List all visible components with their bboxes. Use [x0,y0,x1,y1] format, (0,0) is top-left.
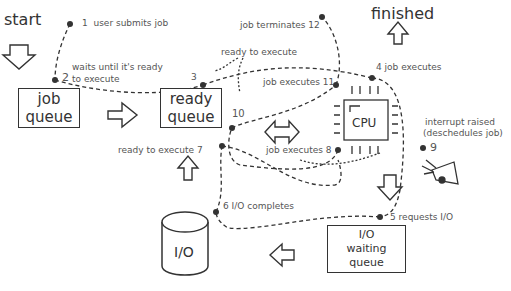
node-4 [369,75,375,81]
arrow-up-finished-icon [388,22,408,44]
node-1 [67,21,73,27]
path-ready-10 [238,58,243,93]
node-5 [377,214,383,220]
step-1-label: 1 user submits job [82,18,168,29]
ready-queue-line2: queue [168,108,215,126]
step-2-label-cont: to execute [72,74,120,85]
step-7-label: ready to execute 7 [118,145,203,156]
start-label: start [4,10,41,29]
deschedules-label: (deschedules job) [423,128,503,139]
node-6 [213,209,219,215]
ready-queue-box: ready queue [160,88,222,128]
io-waiting-line1: I/O [359,228,375,242]
cpu-label: CPU [352,118,376,129]
interrupt-label: interrupt raised [425,117,495,128]
finished-label: finished [371,4,434,23]
step-9-number: 9 [430,142,437,153]
node-10 [229,125,235,131]
ready-to-execute-label: ready to execute [221,47,297,58]
node-9 [420,145,426,151]
step-5-label: 5 requests I/O [390,212,453,223]
io-waiting-line2: waiting queue [328,242,405,270]
node-7 [219,143,225,149]
step-4-label: 4 job executes [376,62,442,73]
megaphone-icon [422,160,458,184]
path-10-11 [232,85,336,128]
path-6-7 [216,146,222,212]
arrow-bidirectional-icon [265,121,299,143]
job-queue-line1: job [38,90,61,108]
node-2 [52,77,58,83]
path-11-12 [322,17,339,85]
step-10-number: 10 [232,108,245,119]
path-ready-3 [215,58,238,71]
step-11-label: job executes 11 [263,77,334,88]
node-8 [335,147,341,153]
io-waiting-queue-box: I/O waiting queue [327,225,406,273]
step-2-number: 2 [62,72,69,83]
step-12-label: job terminates 12 [240,20,320,31]
step-6-label: 6 I/O completes [223,201,294,212]
job-queue-box: job queue [18,88,80,128]
step-8-label: job executes 8 [266,145,332,156]
ready-queue-line1: ready [170,90,213,108]
io-device-label: I/O [174,247,194,258]
arrow-up-ready-icon [178,156,198,180]
arrow-left-io-icon [270,244,294,266]
arrow-down-start-icon [3,45,35,69]
job-queue-line2: queue [26,108,73,126]
step-2-label: waits until it's ready [72,62,163,73]
step-3-number: 3 [191,72,197,83]
arrow-right-icon [108,103,137,127]
